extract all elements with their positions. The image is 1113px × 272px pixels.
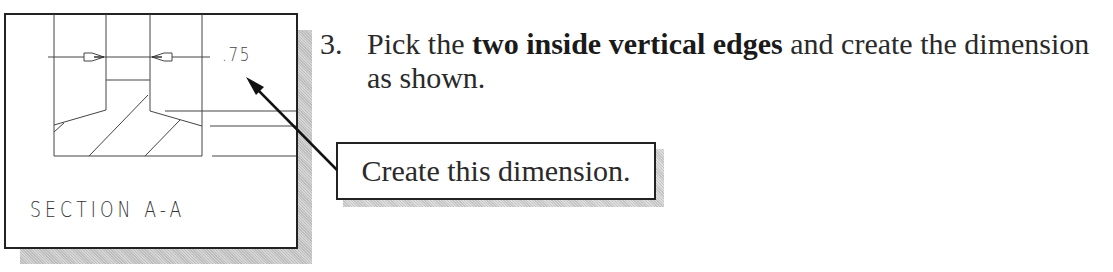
dimension-value: .75 [222, 43, 251, 65]
step-text-bold: two inside vertical edges [472, 27, 783, 60]
section-label: SECTION A-A [30, 198, 185, 222]
step-text: Pick the two inside vertical edges and c… [367, 27, 1107, 95]
step-number: 3. [320, 27, 343, 61]
callout-text: Create this dimension. [361, 154, 630, 188]
callout-box: Create this dimension. [336, 142, 656, 200]
step-text-before: Pick the [367, 27, 472, 60]
